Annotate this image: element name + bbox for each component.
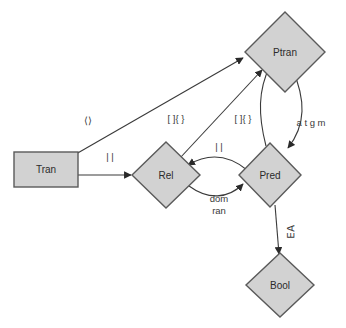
edge-label-dom: dom [210,193,229,204]
edge-rel-to-pred: dom ran [189,184,243,216]
edge-label-bracket-brace-2: [ ]{ } [235,113,252,124]
node-ptran[interactable]: Ptran [245,12,325,92]
edge-line-pred-rel [188,157,247,170]
node-label-ptran: Ptran [273,47,297,58]
edge-tran-to-rel: | | [78,151,131,175]
edge-label-atgm: a t g m [296,117,325,128]
node-label-rel: Rel [158,170,173,181]
edge-line-pred-bool [275,205,279,254]
edge-label-ran: ran [212,205,226,216]
node-rel[interactable]: Rel [132,142,200,208]
edge-label-double-bar-1: | | [106,151,114,162]
edge-label-bracket-brace-1: [ ]{ } [168,113,185,124]
node-tran[interactable]: Tran [14,152,78,187]
edge-label-double-bar-2: | | [215,141,223,152]
node-bool[interactable]: Bool [246,253,314,317]
diagram-canvas: ⟨⟩ | | [ ]{ } [ ]{ } a t g m | | [0,0,346,328]
node-label-bool: Bool [270,280,290,291]
node-pred[interactable]: Pred [239,143,301,207]
edge-pred-to-bool: ∀∃ [275,205,296,254]
relationship-diagram: ⟨⟩ | | [ ]{ } [ ]{ } a t g m | | [0,0,346,328]
edge-line-pred-ptran [260,66,270,146]
edge-label-angle-brackets: ⟨⟩ [84,115,92,126]
node-label-pred: Pred [259,170,280,181]
edge-pred-to-rel: | | [188,141,247,170]
edge-pred-to-ptran: [ ]{ } [235,66,270,146]
edge-label-quantifiers: ∀∃ [285,225,296,238]
node-label-tran: Tran [36,164,56,175]
